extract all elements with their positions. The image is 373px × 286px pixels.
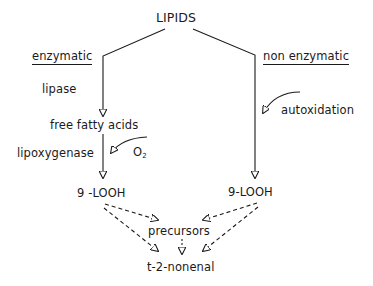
right-looh-to-nonenal	[203, 207, 258, 251]
lipid-oxidation-diagram: LIPIDS enzymatic non enzymatic lipase au…	[0, 0, 373, 286]
label-autoxidation: autoxidation	[281, 103, 354, 117]
left-branch-line	[103, 29, 165, 116]
label-free-fatty-acids: free fatty acids	[50, 118, 138, 132]
title-lipids: LIPIDS	[156, 11, 196, 25]
o2-subscript: 2	[142, 152, 147, 160]
right-looh-to-precursors	[203, 203, 257, 220]
heading-non-enzymatic: non enzymatic	[263, 49, 349, 65]
label-o2: O2	[133, 145, 147, 163]
right-branch-line	[193, 29, 255, 178]
label-lipoxygenase: lipoxygenase	[17, 146, 94, 160]
diagram-connectors	[0, 0, 373, 286]
left-looh-to-precursors	[105, 204, 158, 220]
label-9-looh-right: 9-LOOH	[228, 185, 273, 199]
label-precursors: precursors	[148, 224, 210, 238]
label-9-looh-left: 9 -LOOH	[77, 186, 126, 200]
label-lipase: lipase	[42, 82, 76, 96]
label-t-2-nonenal: t-2-nonenal	[147, 260, 214, 274]
o2-symbol: O	[133, 145, 142, 159]
heading-enzymatic: enzymatic	[32, 49, 92, 65]
